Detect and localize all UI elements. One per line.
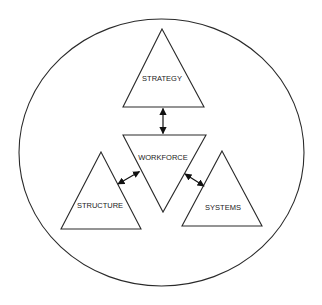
diagram-canvas: STRATEGY WORKFORCE STRUCTURE SYSTEMS bbox=[0, 0, 322, 305]
structure-label: STRUCTURE bbox=[77, 201, 123, 210]
node-strategy: STRATEGY bbox=[123, 29, 204, 107]
structure-triangle bbox=[61, 152, 141, 229]
systems-triangle bbox=[182, 151, 262, 226]
strategy-label: STRATEGY bbox=[142, 74, 182, 83]
node-systems: SYSTEMS bbox=[182, 151, 262, 226]
workforce-label: WORKFORCE bbox=[138, 153, 188, 162]
strategy-triangle bbox=[123, 29, 204, 107]
systems-label: SYSTEMS bbox=[205, 203, 241, 212]
node-structure: STRUCTURE bbox=[61, 152, 141, 229]
arrow-systems-workforce bbox=[185, 174, 204, 186]
arrow-structure-workforce bbox=[118, 172, 140, 185]
